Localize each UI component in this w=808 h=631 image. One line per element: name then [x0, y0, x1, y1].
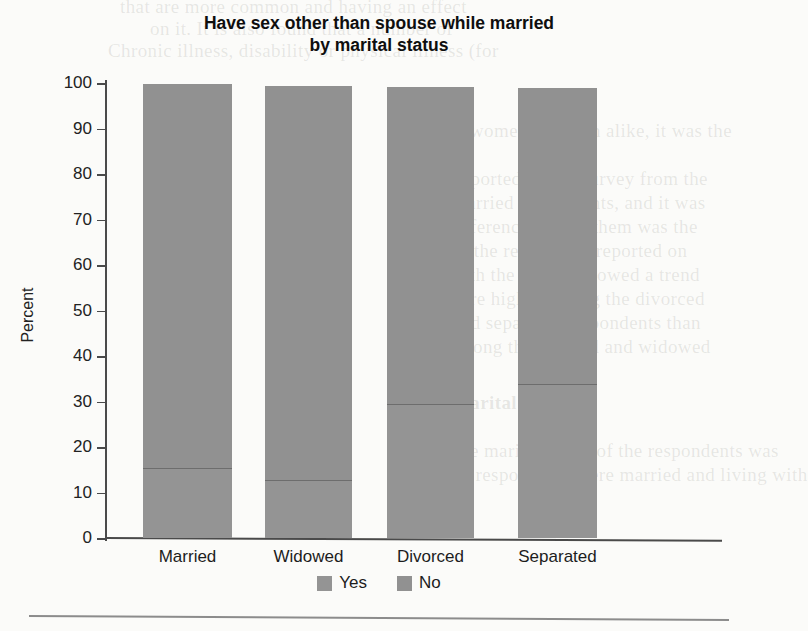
legend-label-yes: Yes	[339, 573, 367, 593]
chart-title: Have sex other than spouse while married…	[0, 12, 758, 56]
legend-item-yes[interactable]: Yes	[317, 573, 367, 593]
chart-legend: Yes No	[0, 573, 758, 593]
bar-segment-no-separated[interactable]	[518, 88, 597, 386]
y-axis-title: Percent	[19, 287, 37, 342]
bar-segment-yes-married[interactable]	[143, 468, 232, 538]
bar-segment-yes-widowed[interactable]	[265, 480, 352, 538]
bar-segment-no-divorced[interactable]	[387, 87, 474, 405]
y-tick-label-20: 20	[73, 437, 92, 457]
x-axis-line	[105, 537, 722, 541]
x-tick-label-divorced: Divorced	[397, 547, 464, 567]
x-tick-label-married: Married	[159, 547, 217, 567]
y-tick-label-0: 0	[83, 528, 92, 548]
y-tick-10	[97, 493, 105, 495]
legend-swatch-yes	[317, 576, 332, 591]
y-tick-30	[97, 402, 105, 404]
y-tick-label-60: 60	[73, 255, 92, 275]
y-axis-line	[105, 80, 107, 541]
legend-swatch-no	[397, 576, 412, 591]
legend-item-no[interactable]: No	[397, 573, 441, 593]
y-tick-0	[97, 538, 105, 540]
legend-label-no: No	[419, 573, 441, 593]
y-tick-70	[97, 220, 105, 222]
bar-segment-yes-separated[interactable]	[518, 384, 597, 538]
y-tick-label-70: 70	[73, 210, 92, 230]
page-divider-rule	[29, 615, 729, 621]
y-tick-100	[97, 83, 105, 85]
x-tick-label-widowed: Widowed	[274, 547, 344, 567]
y-tick-60	[97, 265, 105, 267]
x-tick-label-separated: Separated	[518, 547, 596, 567]
y-tick-label-30: 30	[73, 392, 92, 412]
y-tick-90	[97, 129, 105, 131]
bar-separated[interactable]: Separated	[518, 88, 597, 538]
y-tick-80	[97, 174, 105, 176]
y-tick-label-10: 10	[73, 483, 92, 503]
y-tick-label-80: 80	[73, 164, 92, 184]
chart-title-line-1: Have sex other than spouse while married	[0, 12, 758, 34]
bar-segment-no-widowed[interactable]	[265, 86, 352, 481]
bar-segment-yes-divorced[interactable]	[387, 404, 474, 538]
bar-married[interactable]: Married	[143, 84, 232, 538]
bar-segment-no-married[interactable]	[143, 84, 232, 468]
y-tick-label-40: 40	[73, 346, 92, 366]
y-tick-label-50: 50	[73, 301, 92, 321]
y-tick-40	[97, 356, 105, 358]
bar-divorced[interactable]: Divorced	[387, 87, 474, 538]
y-tick-label-90: 90	[73, 119, 92, 139]
plot-area: 0102030405060708090100 MarriedWidowedDiv…	[105, 83, 720, 538]
bar-widowed[interactable]: Widowed	[265, 86, 352, 538]
y-tick-50	[97, 311, 105, 313]
chart-title-line-2: by marital status	[0, 34, 758, 56]
y-tick-label-100: 100	[64, 73, 92, 93]
y-tick-20	[97, 447, 105, 449]
